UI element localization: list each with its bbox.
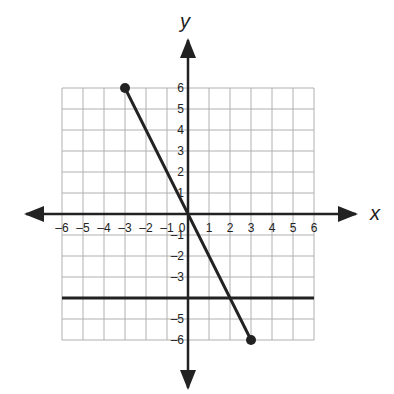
y-tick-label: –3 — [171, 270, 185, 284]
x-tick-label: 2 — [227, 221, 234, 235]
x-tick-label: –5 — [76, 221, 90, 235]
x-tick-label: 5 — [290, 221, 297, 235]
y-tick-label: –5 — [171, 312, 185, 326]
y-tick-label: –1 — [171, 228, 185, 242]
coordinate-plane: –6–5–4–3–2–10123456654321–1–2–3–5–6 x y — [0, 0, 394, 394]
x-tick-label: 4 — [269, 221, 276, 235]
y-tick-label: 5 — [177, 102, 184, 116]
x-tick-label: –3 — [118, 221, 132, 235]
x-tick-label: 3 — [248, 221, 255, 235]
x-tick-label: –6 — [55, 221, 69, 235]
x-tick-label: 1 — [206, 221, 213, 235]
endpoint-marker — [246, 335, 256, 345]
y-tick-label: –2 — [171, 249, 185, 263]
y-tick-label: –6 — [171, 333, 185, 347]
y-tick-label: 6 — [177, 81, 184, 95]
x-tick-label: –2 — [139, 221, 153, 235]
y-tick-label: 3 — [177, 144, 184, 158]
endpoint-marker — [120, 83, 130, 93]
x-tick-label: –4 — [97, 221, 111, 235]
x-tick-label: 6 — [311, 221, 318, 235]
axes — [26, 40, 356, 388]
y-axis-label: y — [178, 10, 191, 32]
y-tick-label: 2 — [177, 165, 184, 179]
x-axis-label: x — [369, 202, 381, 224]
y-tick-label: 4 — [177, 123, 184, 137]
